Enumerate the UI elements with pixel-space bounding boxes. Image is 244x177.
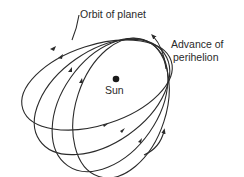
advance-arrow-lower: [144, 131, 164, 155]
arrow-icon: [79, 78, 83, 83]
arrow-icon: [68, 67, 72, 72]
arrow-icon: [50, 46, 56, 51]
orbit-label-leader: [72, 15, 79, 40]
sun-dot: [113, 76, 120, 83]
orbit-label: Orbit of planet: [80, 8, 146, 20]
advance-label-line2: perihelion: [173, 51, 219, 63]
arrow-icon: [120, 128, 125, 133]
orbit-2: [13, 16, 190, 177]
orbit-diagram: Orbit of planet Advance of perihelion Su…: [0, 0, 244, 177]
advance-label-line1: Advance of: [171, 38, 224, 50]
orbit-ellipses: [10, 16, 191, 177]
sun-label: Sun: [105, 84, 124, 96]
